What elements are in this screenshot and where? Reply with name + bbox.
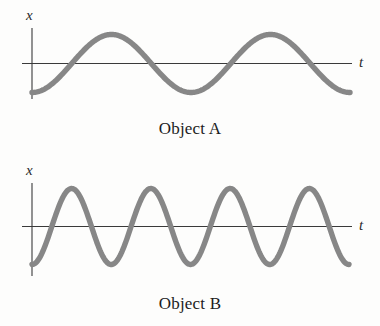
object-a-panel: x t Object A	[0, 0, 380, 163]
object-b-x-axis-label: t	[359, 218, 363, 233]
object-a-y-axis-label: x	[26, 8, 33, 23]
oscillation-figure: x t Object A x t Object B	[0, 0, 380, 326]
object-b-caption: Object B	[0, 295, 380, 312]
object-a-plot	[0, 0, 380, 163]
object-b-panel: x t Object B	[0, 155, 380, 326]
object-b-y-axis-label: x	[26, 163, 33, 178]
object-a-caption: Object A	[0, 120, 380, 137]
object-a-x-axis-label: t	[359, 55, 363, 70]
